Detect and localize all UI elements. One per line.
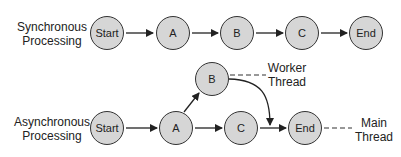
- sync-label-line1: Synchronous: [14, 20, 90, 34]
- sync-node-start: Start: [90, 16, 124, 50]
- worker-thread-label: Worker Thread: [262, 61, 312, 89]
- worker-thread-line1: Worker: [262, 61, 312, 75]
- async-node-end: End: [288, 111, 322, 145]
- sync-processing-label: Synchronous Processing: [14, 20, 90, 48]
- sync-node-a: A: [156, 16, 190, 50]
- async-processing-label: Asynchronous Processing: [12, 115, 92, 143]
- worker-thread-line2: Thread: [262, 75, 312, 89]
- sync-node-end: End: [349, 16, 383, 50]
- sync-label-line2: Processing: [14, 34, 90, 48]
- sync-node-c: C: [285, 16, 319, 50]
- arrow-async-a-b: [184, 93, 199, 112]
- async-node-c: C: [224, 111, 258, 145]
- async-label-line1: Asynchronous: [12, 115, 92, 129]
- async-node-a: A: [159, 111, 193, 145]
- main-thread-line2: Thread: [350, 130, 398, 144]
- async-node-b: B: [195, 62, 229, 96]
- main-thread-label: Main Thread: [350, 116, 398, 144]
- async-label-line2: Processing: [12, 129, 92, 143]
- async-node-start: Start: [90, 111, 124, 145]
- sync-node-b: B: [220, 16, 254, 50]
- diagram-canvas: Synchronous Processing Start A B C End A…: [0, 0, 401, 157]
- main-thread-line1: Main: [350, 116, 398, 130]
